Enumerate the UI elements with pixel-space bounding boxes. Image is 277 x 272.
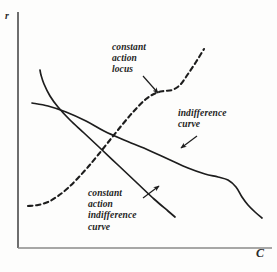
annotation-constant-action-indifference-curve: constant action indifference curve <box>88 188 137 233</box>
annotation-indifference-curve: indifference curve <box>178 108 227 130</box>
annotation-constant-action-locus: constant action locus <box>112 42 146 76</box>
y-axis-label: r <box>5 10 9 21</box>
x-axis-label: C <box>256 246 264 261</box>
figure-canvas <box>0 0 277 272</box>
leader-arrow-indifference-curve <box>181 136 197 148</box>
leader-arrow-constant-action-locus <box>143 76 158 93</box>
economics-figure: r C constant action locus indifference c… <box>0 0 277 272</box>
curve-indifference-curve <box>32 103 262 218</box>
